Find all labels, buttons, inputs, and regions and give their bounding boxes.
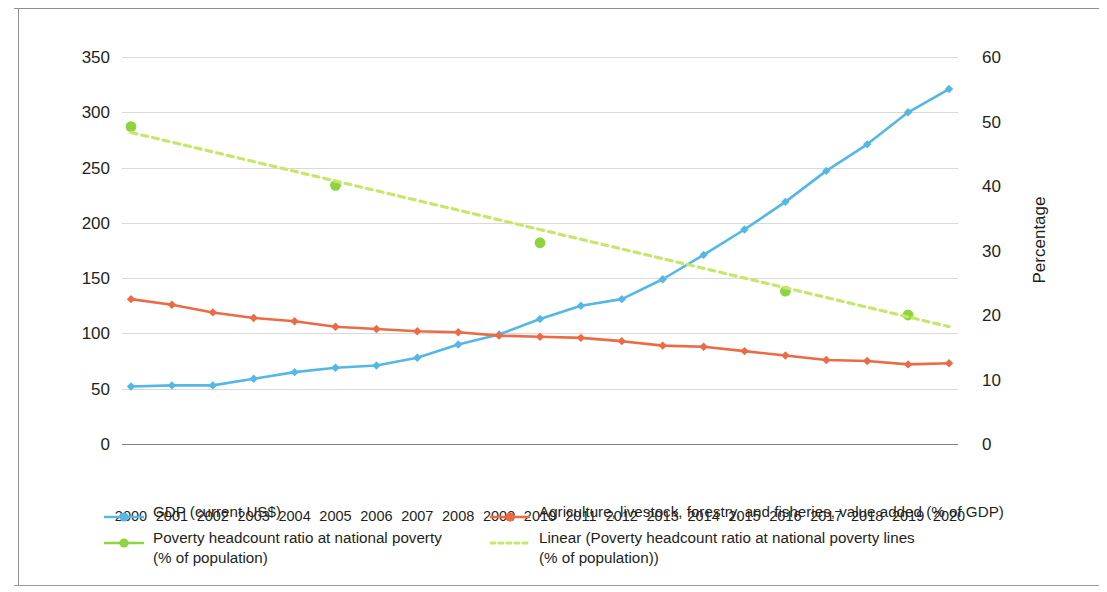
y-axis-tick-label-left: 100 <box>50 325 110 342</box>
series-solid <box>127 295 953 369</box>
page-border-top <box>14 8 1099 9</box>
legend-item-label: GDP (current US$) <box>153 502 281 522</box>
page-border-bottom <box>14 585 1099 586</box>
legend-line-marker-icon <box>104 535 144 552</box>
y-axis-tick-label-right: 10 <box>982 372 1022 389</box>
y-axis-title-right: Percentage <box>1030 197 1050 284</box>
y-axis-tick-label-left: 200 <box>50 215 110 232</box>
legend-item-label: Agriculture, livestock, forestry, and fi… <box>539 502 1004 522</box>
page-border-left <box>18 8 19 586</box>
y-axis-tick-label-left: 250 <box>50 160 110 177</box>
series-dashed <box>131 132 949 326</box>
y-axis-tick-label-right: 30 <box>982 243 1022 260</box>
y-axis-tick-label-right: 60 <box>982 49 1022 66</box>
legend-line-marker-icon <box>104 509 144 526</box>
y-axis-tick-label-left: 300 <box>50 104 110 121</box>
chart-figure: US$ billions Percentage 0501001502002503… <box>0 0 1107 592</box>
y-axis-tick-label-left: 50 <box>50 381 110 398</box>
legend-item[interactable]: GDP (current US$) <box>104 502 281 526</box>
y-axis-tick-label-left: 350 <box>50 49 110 66</box>
legend-item-label: Poverty headcount ratio at national pove… <box>153 528 442 568</box>
plot-area: 050100150200250300350 0102030405060 2000… <box>122 57 958 444</box>
legend-item[interactable]: Linear (Poverty headcount ratio at natio… <box>490 528 915 568</box>
y-axis-tick-label-right: 0 <box>982 436 1022 453</box>
y-axis-tick-label-left: 0 <box>50 436 110 453</box>
legend-dashed-line-icon <box>490 535 530 552</box>
series-layer <box>122 57 958 444</box>
y-axis-tick-label-right: 20 <box>982 307 1022 324</box>
y-axis-tick-label-left: 150 <box>50 270 110 287</box>
legend-item-label: Linear (Poverty headcount ratio at natio… <box>539 528 915 568</box>
y-axis-tick-label-right: 40 <box>982 178 1022 195</box>
legend-item[interactable]: Poverty headcount ratio at national pove… <box>104 528 442 568</box>
y-axis-tick-label-right: 50 <box>982 114 1022 131</box>
legend-item[interactable]: Agriculture, livestock, forestry, and fi… <box>490 502 1004 526</box>
chart-legend: GDP (current US$)Agriculture, livestock,… <box>104 500 1094 578</box>
legend-line-marker-icon <box>490 509 530 526</box>
gridline <box>122 444 958 445</box>
